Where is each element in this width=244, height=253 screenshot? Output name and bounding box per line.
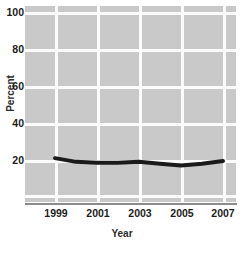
x-axis-label: Year (0, 228, 244, 239)
x-tick-label-2001: 2001 (76, 207, 120, 219)
y-tick-label-100: 100 (0, 6, 24, 18)
x-tick-label-2003: 2003 (118, 207, 162, 219)
y-tick-label-20: 20 (0, 154, 24, 166)
data-series-line (25, 6, 236, 202)
line-chart: Percent 100 80 60 40 20 1999 2001 2003 2… (0, 0, 244, 253)
x-axis-line (25, 203, 237, 205)
y-tick-label-80: 80 (0, 43, 24, 55)
y-tick-label-60: 60 (0, 80, 24, 92)
x-tick-label-1999: 1999 (34, 207, 78, 219)
y-tick-label-40: 40 (0, 117, 24, 129)
plot-area (25, 6, 236, 202)
y-axis-label: Percent (5, 64, 16, 124)
x-tick-label-2007: 2007 (201, 207, 244, 219)
x-tick-label-2005: 2005 (160, 207, 204, 219)
